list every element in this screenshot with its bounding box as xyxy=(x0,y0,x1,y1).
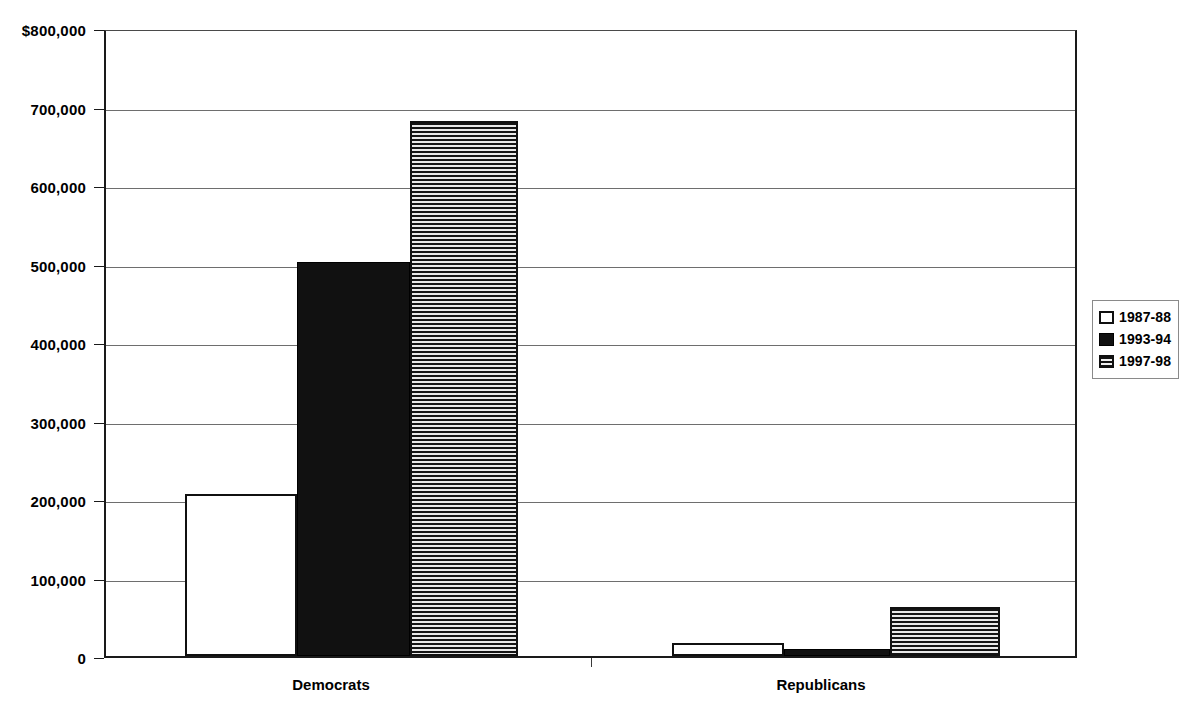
gridline xyxy=(106,110,1075,111)
legend-label: 1987-88 xyxy=(1119,309,1171,325)
legend-label: 1997-98 xyxy=(1119,353,1171,369)
y-axis-tick-mark xyxy=(94,580,104,581)
legend-item[interactable]: 1987-88 xyxy=(1099,306,1171,328)
y-axis-tick-label: $800,000 xyxy=(22,22,86,39)
bar-republicans-1987-88[interactable] xyxy=(672,643,784,656)
y-axis-tick-label: 600,000 xyxy=(30,179,86,196)
y-axis-tick-label: 100,000 xyxy=(30,571,86,588)
y-axis-tick-label: 200,000 xyxy=(30,493,86,510)
legend: 1987-88 1993-94 1997-98 xyxy=(1092,300,1179,379)
legend-item[interactable]: 1997-98 xyxy=(1099,350,1171,372)
y-axis-tick-mark xyxy=(94,501,104,502)
bar-republicans-1993-94[interactable] xyxy=(784,649,890,656)
y-axis-tick-label: 500,000 xyxy=(30,257,86,274)
bar-democrats-1987-88[interactable] xyxy=(185,494,297,656)
bar-republicans-1997-98[interactable] xyxy=(890,607,1000,656)
y-axis-tick-label: 0 xyxy=(77,650,86,667)
gridline xyxy=(106,424,1075,425)
bar-democrats-1997-98[interactable] xyxy=(410,121,518,656)
legend-swatch-1993-94-icon xyxy=(1099,333,1114,346)
x-axis-tick-mark xyxy=(591,658,592,667)
bar-democrats-1993-94[interactable] xyxy=(297,262,410,656)
legend-item[interactable]: 1993-94 xyxy=(1099,328,1171,350)
bar-chart: 0100,000200,000300,000400,000500,000600,… xyxy=(0,0,1203,711)
y-axis-tick-mark xyxy=(94,109,104,110)
y-axis-tick-mark xyxy=(94,187,104,188)
y-axis-tick-label: 400,000 xyxy=(30,336,86,353)
x-axis-label-democrats: Democrats xyxy=(292,676,370,693)
y-axis-tick-label: 300,000 xyxy=(30,414,86,431)
y-axis-tick-mark xyxy=(94,30,104,31)
legend-swatch-1997-98-icon xyxy=(1099,355,1114,368)
plot-area xyxy=(104,30,1077,658)
x-axis-label-republicans: Republicans xyxy=(776,676,865,693)
y-axis-tick-mark xyxy=(94,344,104,345)
gridline xyxy=(106,267,1075,268)
gridline xyxy=(106,345,1075,346)
legend-label: 1993-94 xyxy=(1119,331,1171,347)
y-axis-tick-mark xyxy=(94,658,104,659)
y-axis-tick-label: 700,000 xyxy=(30,100,86,117)
y-axis-tick-mark xyxy=(94,266,104,267)
gridline xyxy=(106,188,1075,189)
legend-swatch-1987-88-icon xyxy=(1099,311,1114,324)
y-axis-tick-mark xyxy=(94,423,104,424)
